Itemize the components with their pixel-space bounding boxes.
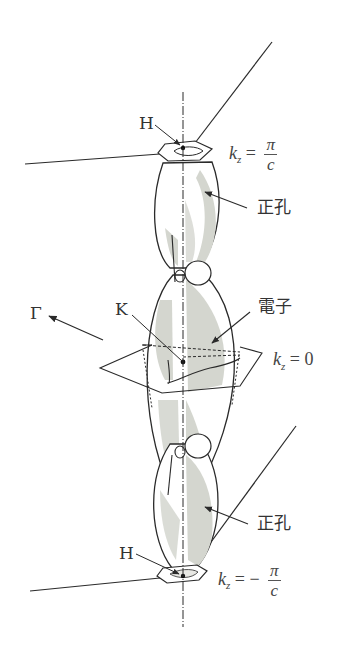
label-hole-bottom: 正孔 xyxy=(257,515,291,532)
label-h-top: H xyxy=(139,115,154,132)
kz-bot-den: c xyxy=(268,581,281,599)
kz-mid-z: z xyxy=(281,360,285,372)
bz-edge-top-left xyxy=(25,154,160,164)
upper-hole-pocket xyxy=(155,162,219,268)
label-electron: 電子 xyxy=(258,298,292,315)
label-gamma: Γ xyxy=(30,305,42,322)
bz-edge-top-right xyxy=(195,42,272,143)
kz-mid-k: k xyxy=(273,349,281,369)
kz-bot-fraction: π c xyxy=(268,562,281,599)
label-hole-top: 正孔 xyxy=(257,199,291,216)
top-hexagon-h-point xyxy=(158,141,212,161)
kz-top-num: π xyxy=(264,136,277,155)
fermi-surface-diagram xyxy=(0,0,349,651)
gamma-arrow xyxy=(49,316,103,340)
kz-bot-num: π xyxy=(268,562,281,581)
kz-top-eq: = xyxy=(246,143,256,163)
label-k-point: K xyxy=(115,301,128,318)
kz-top-fraction: π c xyxy=(264,136,277,173)
kz-top-den: c xyxy=(264,155,277,173)
label-kz-zero: kz = 0 xyxy=(273,350,313,372)
label-kz-pi-over-c: kz = π c xyxy=(229,136,277,173)
kz-bot-z: z xyxy=(226,579,230,591)
kz-mid-eq: = 0 xyxy=(290,349,314,369)
label-h-bottom: H xyxy=(119,545,134,562)
bz-edge-bottom-left xyxy=(30,578,160,591)
kz-bot-eq: = − xyxy=(235,569,260,589)
label-kz-minus-pi-over-c: kz = − π c xyxy=(218,562,281,599)
kz-top-z: z xyxy=(237,153,241,165)
kz-top-k: k xyxy=(229,143,237,163)
kz-bot-k: k xyxy=(218,569,226,589)
h-top-leader xyxy=(155,125,180,145)
